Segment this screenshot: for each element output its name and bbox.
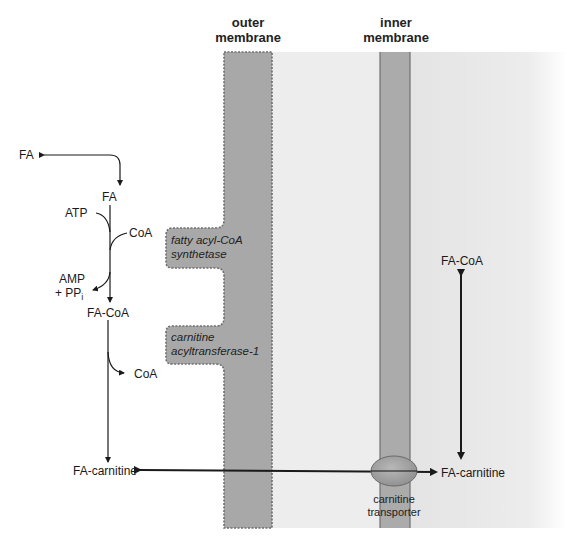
mitochondrial-matrix xyxy=(410,52,567,528)
fatty-acyl-coa-synthetase-label: fatty acyl-CoA synthetase xyxy=(171,233,243,261)
fa-carnitine-cytosol-label: FA-carnitine xyxy=(73,464,137,478)
ppi-label: + PPi xyxy=(55,286,83,304)
fa-outside-label: FA xyxy=(19,148,34,162)
atp-input-curve xyxy=(96,213,110,232)
atp-label: ATP xyxy=(65,206,87,220)
fa-exchange-arrow xyxy=(44,155,120,185)
amp-output-curve xyxy=(93,272,110,290)
inner-membrane-label: inner membrane xyxy=(344,15,448,45)
coa-output-curve xyxy=(108,352,124,373)
amp-label: AMP xyxy=(59,272,85,286)
fa-coa-label: FA-CoA xyxy=(87,306,129,320)
carnitine-acyltransferase-1-label: carnitine acyltransferase-1 xyxy=(171,330,259,358)
carnitine-transporter-label: carnitine transporter xyxy=(354,493,434,519)
intermembrane-space xyxy=(272,52,380,528)
fa-label: FA xyxy=(102,190,117,204)
fa-coa-matrix-label: FA-CoA xyxy=(441,254,483,268)
coa-input-curve xyxy=(110,233,127,250)
outer-membrane xyxy=(166,52,272,528)
coa-output-label: CoA xyxy=(134,367,157,381)
coa-input-label: CoA xyxy=(129,226,152,240)
outer-membrane-label: outer membrane xyxy=(196,15,300,45)
fa-carnitine-matrix-label: FA-carnitine xyxy=(441,466,505,480)
